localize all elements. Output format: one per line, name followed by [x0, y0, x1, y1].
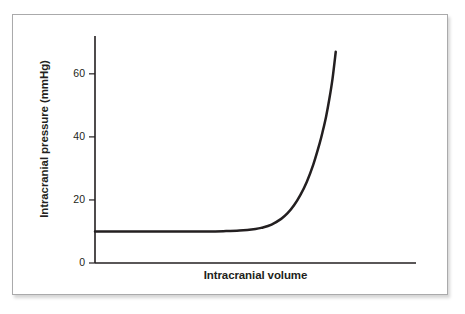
y-axis-ticks	[89, 74, 95, 263]
y-tick-label-20: 20	[59, 194, 85, 205]
plot-area: 0 20 40 60 Intracranial pressure (mmHg) …	[13, 15, 449, 296]
screenshot-root: 0 20 40 60 Intracranial pressure (mmHg) …	[0, 0, 465, 314]
y-tick-label-0: 0	[59, 257, 85, 268]
pressure-volume-curve	[95, 52, 336, 232]
x-axis-title: Intracranial volume	[95, 269, 416, 281]
y-tick-label-40: 40	[59, 131, 85, 142]
figure-panel: 0 20 40 60 Intracranial pressure (mmHg) …	[12, 14, 448, 295]
intracranial-pressure-volume-chart	[13, 15, 449, 296]
y-tick-label-60: 60	[59, 68, 85, 79]
y-axis-title: Intracranial pressure (mmHg)	[38, 44, 50, 234]
